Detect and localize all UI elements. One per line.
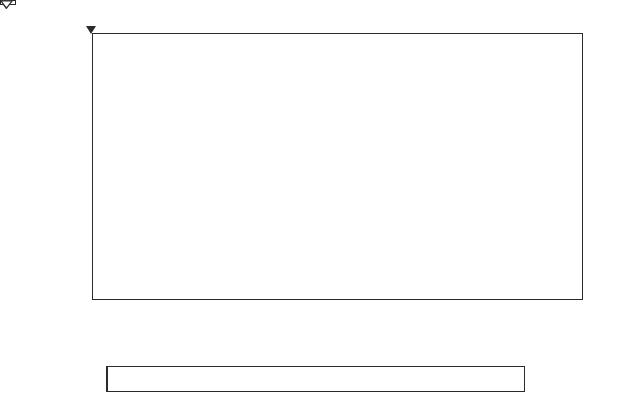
percentile-bar[interactable] bbox=[106, 366, 525, 392]
histogram-chart-panel bbox=[0, 0, 625, 420]
bars-layer bbox=[93, 34, 582, 299]
range-marker-left-icon bbox=[86, 26, 96, 34]
percentile-left-region[interactable] bbox=[107, 367, 108, 391]
plot-area bbox=[92, 33, 583, 300]
x-axis-ticks bbox=[92, 300, 583, 330]
mean-marker-open-icon bbox=[0, 0, 13, 9]
